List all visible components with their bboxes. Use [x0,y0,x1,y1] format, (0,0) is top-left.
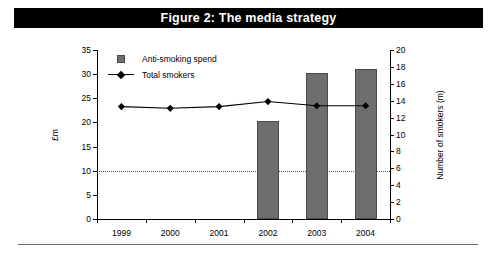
left-tick [93,147,97,148]
left-tick [93,50,97,51]
legend-label: Total smokers [142,70,194,80]
x-axis-label: 2004 [356,228,375,238]
x-axis-label: 2002 [258,228,277,238]
square-swatch-icon [106,55,136,63]
line-marker [167,105,174,112]
left-tick-label: 15 [82,142,91,152]
right-tick [390,118,394,119]
left-tick-label: 0 [86,214,91,224]
page-title: Figure 2: The media strategy [161,11,337,25]
left-tick-label: 5 [86,190,91,200]
right-tick-label: 6 [396,163,401,173]
x-axis-label: 1999 [112,228,131,238]
line-marker [362,102,369,109]
legend-item-anti-smoking-spend: Anti-smoking spend [106,52,217,65]
x-tick [292,219,293,223]
left-axis-title: £m [50,129,60,141]
right-tick-label: 4 [396,180,401,190]
right-tick [390,202,394,203]
x-tick [97,219,98,223]
legend-item-total-smokers: Total smokers [106,68,217,81]
line-marker [264,98,271,105]
right-tick-label: 12 [396,113,405,123]
right-tick-label: 2 [396,197,401,207]
left-tick [93,122,97,123]
figure-container: Figure 2: The media strategy £m Number o… [0,0,497,256]
right-tick [390,168,394,169]
right-tick-label: 16 [396,79,405,89]
right-tick-label: 14 [396,96,405,106]
left-tick [93,98,97,99]
x-tick [146,219,147,223]
left-tick [93,171,97,172]
x-tick [195,219,196,223]
right-tick-label: 20 [396,45,405,55]
right-tick [390,151,394,152]
right-tick [390,50,394,51]
right-tick [390,101,394,102]
x-axis-label: 2003 [307,228,326,238]
right-tick-label: 10 [396,130,405,140]
x-tick [390,219,391,223]
chart-legend: Anti-smoking spend Total smokers [106,52,217,84]
left-tick [93,195,97,196]
right-tick [390,84,394,85]
diamond-line-swatch-icon [106,74,136,75]
left-tick-label: 30 [82,69,91,79]
left-tick-label: 25 [82,93,91,103]
left-tick [93,74,97,75]
right-tick-label: 0 [396,214,401,224]
right-axis-title: Number of smokers (m) [435,90,445,179]
left-tick-label: 10 [82,166,91,176]
left-tick-label: 20 [82,117,91,127]
right-tick-label: 18 [396,62,405,72]
line-marker [215,103,222,110]
line-marker [118,103,125,110]
left-tick-label: 35 [82,45,91,55]
x-tick [341,219,342,223]
total-smokers-markers [118,98,369,112]
line-marker [313,102,320,109]
x-tick [244,219,245,223]
total-smokers-line [121,102,365,109]
legend-label: Anti-smoking spend [142,54,217,64]
figure-title-bar: Figure 2: The media strategy [14,8,483,28]
x-axis-label: 2001 [210,228,229,238]
bottom-divider [18,244,478,245]
right-tick [390,185,394,186]
right-tick [390,67,394,68]
right-tick [390,135,394,136]
x-axis-label: 2000 [161,228,180,238]
right-tick-label: 8 [396,146,401,156]
